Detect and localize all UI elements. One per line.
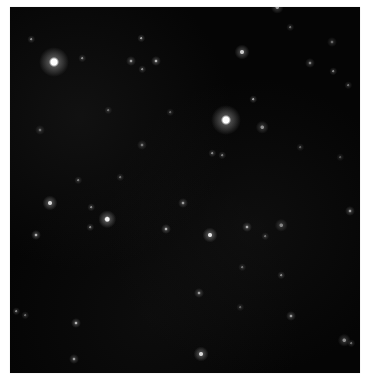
star	[327, 37, 337, 47]
star	[35, 125, 45, 135]
star	[208, 149, 216, 157]
star	[137, 140, 147, 150]
star	[249, 95, 257, 103]
star	[151, 56, 161, 66]
star	[296, 143, 304, 151]
star	[336, 153, 344, 161]
star	[27, 35, 35, 43]
star	[277, 271, 285, 279]
star	[236, 303, 244, 311]
star	[98, 210, 116, 228]
star	[286, 311, 296, 321]
star	[161, 224, 171, 234]
star	[211, 105, 241, 135]
star	[305, 58, 315, 68]
star	[126, 56, 136, 66]
star	[275, 219, 288, 232]
star	[74, 176, 82, 184]
star	[21, 311, 29, 319]
star	[347, 339, 355, 347]
star	[12, 307, 20, 315]
star	[178, 198, 188, 208]
star	[242, 222, 252, 232]
star	[86, 223, 94, 231]
star	[43, 196, 58, 211]
star	[218, 151, 226, 159]
star	[69, 354, 79, 364]
star	[238, 263, 246, 271]
star	[116, 173, 124, 181]
star	[271, 7, 284, 13]
star-field-image	[10, 7, 360, 373]
star	[194, 347, 209, 362]
star	[137, 34, 145, 42]
star	[286, 23, 294, 31]
star	[39, 47, 69, 77]
star	[71, 318, 81, 328]
star	[329, 67, 337, 75]
star	[194, 288, 204, 298]
star	[104, 106, 112, 114]
star	[256, 121, 269, 134]
star	[78, 54, 86, 62]
star	[138, 65, 146, 73]
star	[31, 230, 41, 240]
star	[345, 206, 355, 216]
star	[344, 81, 352, 89]
star	[87, 203, 95, 211]
star	[166, 108, 174, 116]
star	[203, 228, 218, 243]
star	[261, 232, 269, 240]
star	[235, 45, 250, 60]
